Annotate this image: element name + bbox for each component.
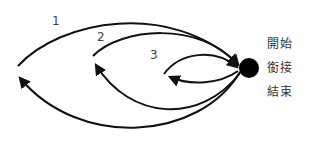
loop-2-return-arc bbox=[96, 65, 240, 109]
state-transition-label: 銜接 bbox=[267, 62, 293, 74]
state-start-label: 開始 bbox=[267, 38, 293, 50]
loop-diagram bbox=[0, 0, 310, 150]
loop-3-return-arc bbox=[170, 71, 238, 83]
loop-3-outgoing-arc bbox=[164, 55, 237, 74]
hub-node bbox=[239, 58, 259, 78]
loop-1-label: 1 bbox=[52, 15, 60, 27]
loop-3 bbox=[164, 55, 238, 83]
loop-1-outgoing-arc bbox=[18, 23, 238, 66]
loop-1 bbox=[18, 23, 240, 127]
loop-2-outgoing-arc bbox=[93, 33, 238, 65]
state-end-label: 結束 bbox=[267, 86, 293, 98]
loop-3-label: 3 bbox=[150, 49, 158, 61]
loop-2-label: 2 bbox=[97, 31, 105, 43]
